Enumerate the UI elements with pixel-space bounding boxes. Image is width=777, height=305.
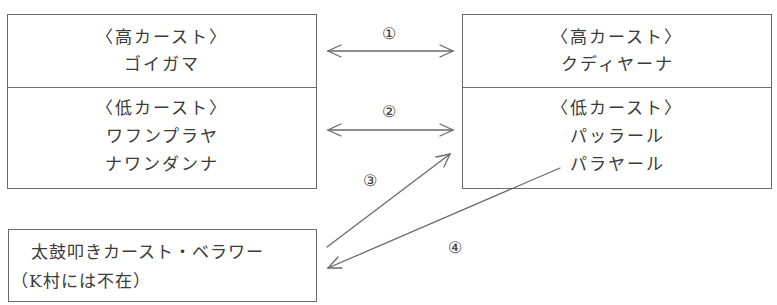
- arrow-1-label: ①: [379, 24, 399, 44]
- right-low-caste-member: パラヤール: [463, 150, 771, 175]
- left-low-caste-section: 〈低カースト〉 ワフンプラヤ ナワンダンナ: [8, 87, 316, 189]
- left-low-caste-member: ワフンプラヤ: [8, 122, 316, 147]
- right-caste-box: 〈高カースト〉 クディヤーナ 〈低カースト〉 パッラール パラヤール: [462, 14, 772, 189]
- arrow-3: [327, 154, 450, 247]
- right-high-caste-member: クディヤーナ: [463, 50, 771, 75]
- arrow-2-label: ②: [379, 102, 399, 122]
- left-high-caste-section: 〈高カースト〉 ゴイガマ: [8, 15, 316, 88]
- right-high-caste-section: 〈高カースト〉 クディヤーナ: [463, 15, 771, 88]
- arrow-3-label: ③: [360, 171, 380, 191]
- left-low-caste-member: ナワンダンナ: [8, 150, 316, 175]
- arrow-2: [328, 124, 453, 136]
- left-high-caste-heading: 〈高カースト〉: [8, 23, 316, 48]
- right-low-caste-member: パッラール: [463, 122, 771, 147]
- drummer-caste-note: （K村には不在）: [11, 267, 151, 292]
- left-high-caste-member: ゴイガマ: [8, 50, 316, 75]
- arrow-1: [328, 45, 453, 57]
- right-low-caste-section: 〈低カースト〉 パッラール パラヤール: [463, 87, 771, 189]
- arrow-4-label: ④: [445, 238, 465, 258]
- right-high-caste-heading: 〈高カースト〉: [463, 23, 771, 48]
- left-caste-box: 〈高カースト〉 ゴイガマ 〈低カースト〉 ワフンプラヤ ナワンダンナ: [7, 14, 317, 189]
- drummer-caste-name: 太鼓叩きカースト・ベラワー: [31, 238, 264, 263]
- right-low-caste-heading: 〈低カースト〉: [463, 94, 771, 119]
- left-low-caste-heading: 〈低カースト〉: [8, 94, 316, 119]
- drummer-caste-box: 太鼓叩きカースト・ベラワー （K村には不在）: [8, 229, 317, 302]
